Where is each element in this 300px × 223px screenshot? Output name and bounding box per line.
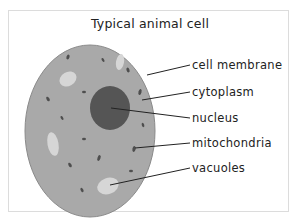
- label-nucleus: nucleus: [192, 112, 239, 124]
- nucleus-shape: [90, 86, 130, 130]
- label-vacuoles: vacuoles: [192, 162, 245, 174]
- leader-cell-membrane: [147, 65, 190, 75]
- label-cytoplasm: cytoplasm: [192, 86, 254, 98]
- cell-illustration: [0, 0, 300, 223]
- label-mitochondria: mitochondria: [192, 137, 272, 149]
- label-cell-membrane: cell membrane: [192, 59, 282, 71]
- cell-membrane-shape: [25, 45, 155, 217]
